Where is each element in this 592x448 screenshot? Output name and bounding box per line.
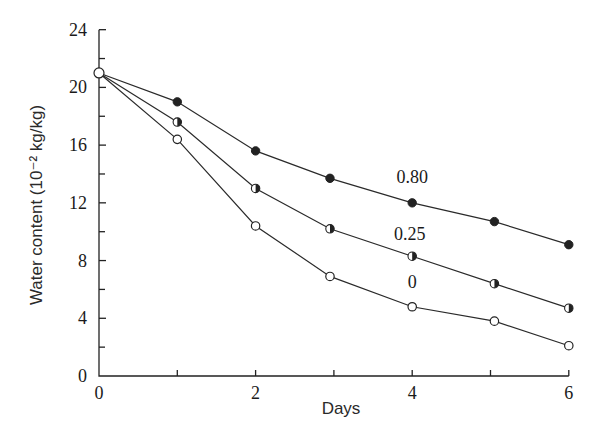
data-point-marker bbox=[565, 240, 573, 248]
data-point-marker bbox=[326, 225, 334, 233]
water-content-chart: 048121620240246 0.800.250 Days Water con… bbox=[0, 0, 592, 448]
x-tick-label: 6 bbox=[564, 383, 573, 403]
y-tick-label: 4 bbox=[78, 308, 87, 328]
y-tick-label: 12 bbox=[69, 193, 87, 213]
data-point-marker bbox=[490, 317, 498, 325]
data-point-marker bbox=[173, 135, 181, 143]
data-point-marker bbox=[408, 199, 416, 207]
data-point-marker bbox=[408, 303, 416, 311]
caption-cutoff bbox=[150, 440, 592, 448]
series-0-25 bbox=[99, 73, 573, 312]
data-point-marker bbox=[565, 304, 573, 312]
series-0 bbox=[94, 68, 573, 350]
y-tick-label: 24 bbox=[69, 20, 87, 40]
x-tick-label: 2 bbox=[251, 383, 260, 403]
data-point-marker bbox=[565, 341, 573, 349]
axes: 048121620240246 bbox=[69, 20, 573, 403]
series-labels: 0.800.250 bbox=[394, 167, 428, 292]
series-line bbox=[99, 73, 569, 308]
x-axis-title: Days bbox=[322, 399, 361, 418]
data-point-marker bbox=[251, 184, 259, 192]
y-tick-label: 8 bbox=[78, 251, 87, 271]
series-group bbox=[94, 68, 573, 350]
data-point-marker bbox=[173, 118, 181, 126]
series-line bbox=[99, 73, 569, 245]
data-point-marker bbox=[251, 147, 259, 155]
x-tick-label: 4 bbox=[408, 383, 417, 403]
y-tick-label: 20 bbox=[69, 77, 87, 97]
y-tick-label: 16 bbox=[69, 135, 87, 155]
data-point-marker bbox=[408, 252, 416, 260]
data-point-marker bbox=[490, 279, 498, 287]
axis-lines bbox=[99, 30, 569, 376]
series-label: 0.80 bbox=[396, 167, 428, 187]
series-line bbox=[99, 73, 569, 346]
series-0-80 bbox=[99, 73, 573, 249]
data-point-marker bbox=[326, 174, 334, 182]
data-point-marker bbox=[94, 68, 104, 78]
series-label: 0 bbox=[408, 272, 417, 292]
data-point-marker bbox=[251, 222, 259, 230]
series-label: 0.25 bbox=[394, 224, 426, 244]
y-tick-label: 0 bbox=[78, 366, 87, 386]
y-axis-title: Water content (10⁻² kg/kg) bbox=[27, 105, 46, 305]
data-point-marker bbox=[490, 217, 498, 225]
x-tick-label: 0 bbox=[95, 383, 104, 403]
data-point-marker bbox=[173, 98, 181, 106]
data-point-marker bbox=[326, 272, 334, 280]
